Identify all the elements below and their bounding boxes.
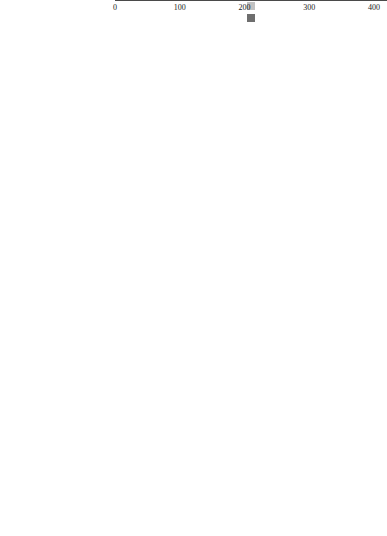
x-axis-tick: 0 bbox=[113, 3, 117, 12]
x-axis-tick: 200 bbox=[239, 3, 251, 12]
legend-swatch-shortfall bbox=[247, 14, 255, 22]
funding-gap-chart: 0100200300400 bbox=[0, 0, 387, 536]
legend-item-shortfall bbox=[247, 14, 259, 22]
x-axis-tick: 400 bbox=[368, 3, 380, 12]
x-axis-tick: 300 bbox=[303, 3, 315, 12]
x-axis-tick: 100 bbox=[174, 3, 186, 12]
x-axis-ticks: 0100200300400 bbox=[115, 0, 387, 14]
